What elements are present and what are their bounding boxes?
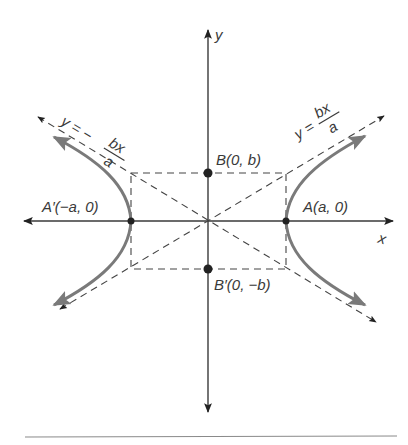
asymptote-negative-lhs: y = − — [58, 111, 96, 143]
point-a — [283, 218, 290, 225]
asymptote-positive-denominator: a — [324, 118, 340, 137]
x-axis-label: x — [375, 229, 388, 248]
point-a-prime — [128, 218, 135, 225]
y-axis-label: y — [214, 26, 224, 43]
label-b: B(0, b) — [216, 151, 261, 168]
label-b-prime: B′(0, −b) — [214, 276, 271, 293]
asymptote-positive-label: y = bx a — [286, 95, 349, 153]
hyperbola-diagram: y x B(0, b) B′(0, −b) A(a, 0) A′(−a, 0) … — [0, 0, 408, 445]
bottom-rule — [25, 436, 397, 437]
asymptote-positive-lhs: y = — [290, 117, 317, 143]
label-a-prime: A′(−a, 0) — [41, 198, 99, 215]
point-b-prime — [204, 265, 213, 274]
point-b — [204, 169, 213, 178]
asymptote-negative — [38, 117, 376, 322]
label-a: A(a, 0) — [302, 198, 348, 215]
